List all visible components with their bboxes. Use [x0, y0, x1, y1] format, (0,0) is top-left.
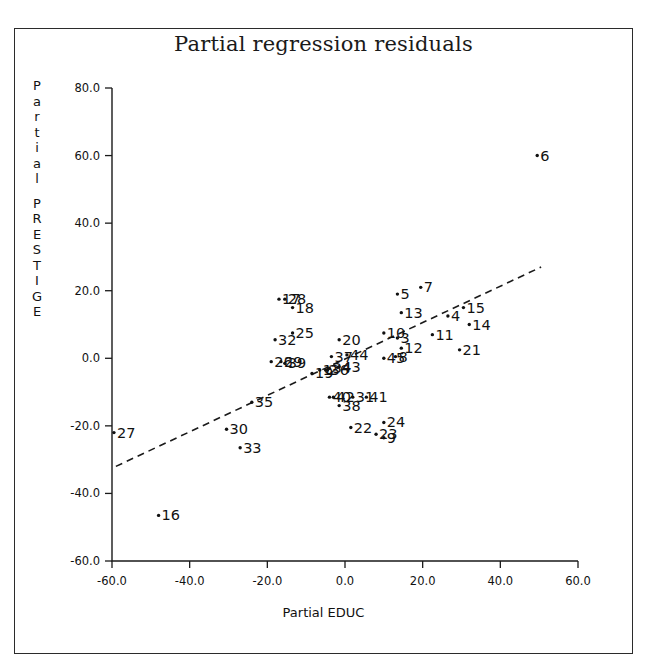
point-marker [382, 357, 385, 360]
point-marker [365, 395, 368, 398]
point-marker [396, 292, 399, 295]
point-label: 24 [387, 414, 405, 430]
point-label: 42 [336, 389, 354, 405]
data-point: 35 [250, 394, 273, 410]
point-marker [337, 365, 340, 368]
point-label: 14 [472, 317, 490, 333]
x-tick-label: -60.0 [97, 574, 127, 588]
point-marker [419, 286, 422, 289]
point-marker [446, 314, 449, 317]
point-marker [279, 360, 282, 363]
data-point: 20 [337, 332, 360, 348]
point-label: 11 [435, 327, 453, 343]
data-point: 10 [382, 325, 405, 341]
y-tick-label: -60.0 [70, 554, 100, 568]
point-marker [349, 426, 352, 429]
x-tick-label: 60.0 [565, 574, 591, 588]
data-point: 30 [225, 421, 248, 437]
point-label: 21 [463, 342, 481, 358]
axis-group [112, 88, 578, 561]
point-marker [270, 360, 273, 363]
point-label: 39 [288, 355, 306, 371]
point-marker [332, 395, 335, 398]
x-tick-label: 40.0 [488, 574, 514, 588]
point-marker [238, 446, 241, 449]
point-marker [112, 431, 115, 434]
data-point: 7 [419, 279, 433, 295]
point-label: 45 [387, 350, 405, 366]
point-label: 44 [350, 347, 368, 363]
data-point: 16 [157, 507, 180, 523]
point-marker [328, 395, 331, 398]
data-point: 14 [468, 317, 491, 333]
point-label: 5 [400, 286, 409, 302]
point-label: 25 [296, 325, 314, 341]
x-tick-label: 0.0 [336, 574, 354, 588]
data-point: 4 [446, 308, 460, 324]
point-marker [382, 331, 385, 334]
point-label: 30 [230, 421, 248, 437]
point-marker [250, 401, 253, 404]
point-label: 15 [466, 300, 484, 316]
data-point: 32 [273, 332, 296, 348]
point-marker [345, 353, 348, 356]
point-marker [330, 355, 333, 358]
point-marker [400, 311, 403, 314]
y-tick-label: 0.0 [82, 351, 100, 365]
y-tick-label: -20.0 [70, 419, 100, 433]
axis-spines [112, 88, 578, 561]
data-points: 1234567891011121314151617181920212223242… [112, 148, 549, 524]
point-label: 35 [255, 394, 273, 410]
point-marker [277, 297, 280, 300]
point-label: 32 [278, 332, 296, 348]
data-point: 21 [458, 342, 481, 358]
point-label: 12 [404, 340, 422, 356]
point-marker [283, 362, 286, 365]
point-label: 13 [404, 305, 422, 321]
point-label: 4 [451, 308, 460, 324]
data-point: 13 [400, 305, 423, 321]
y-tick-label: 60.0 [74, 149, 100, 163]
point-label: 22 [354, 420, 372, 436]
point-label: 33 [243, 440, 261, 456]
point-marker [468, 323, 471, 326]
data-point: 11 [431, 327, 454, 343]
point-label: 16 [162, 507, 180, 523]
point-marker [382, 421, 385, 424]
point-marker [273, 338, 276, 341]
point-label: 7 [424, 279, 433, 295]
point-label: 20 [342, 332, 360, 348]
data-point: 6 [536, 148, 550, 164]
point-marker [157, 514, 160, 517]
point-marker [326, 368, 329, 371]
point-marker [283, 297, 286, 300]
data-point: 5 [396, 286, 410, 302]
point-marker [431, 333, 434, 336]
y-tick-label: -40.0 [70, 486, 100, 500]
y-tick-label: 20.0 [74, 284, 100, 298]
point-marker [374, 433, 377, 436]
point-label: 28 [288, 291, 306, 307]
data-point: 45 [382, 350, 405, 366]
data-point: 33 [238, 440, 261, 456]
point-marker [536, 154, 539, 157]
x-tick-label: -40.0 [175, 574, 205, 588]
figure-root: Partial regression residuals P a r t i a… [0, 0, 647, 669]
point-marker [462, 306, 465, 309]
data-point: 22 [349, 420, 372, 436]
y-tick-label: 40.0 [74, 216, 100, 230]
y-tick-label: 80.0 [74, 81, 100, 95]
tick-group: -60.0-40.0-20.00.020.040.060.080.0-60.0-… [70, 81, 591, 588]
point-marker [458, 348, 461, 351]
x-tick-label: -20.0 [252, 574, 282, 588]
point-marker [337, 338, 340, 341]
point-marker [310, 372, 313, 375]
data-point: 27 [112, 425, 135, 441]
x-tick-label: 20.0 [410, 574, 436, 588]
point-label: 41 [369, 389, 387, 405]
scatter-plot: -60.0-40.0-20.00.020.040.060.080.0-60.0-… [0, 0, 647, 669]
point-label: 27 [117, 425, 135, 441]
point-marker [225, 428, 228, 431]
point-label: 6 [540, 148, 549, 164]
point-label: 10 [387, 325, 405, 341]
